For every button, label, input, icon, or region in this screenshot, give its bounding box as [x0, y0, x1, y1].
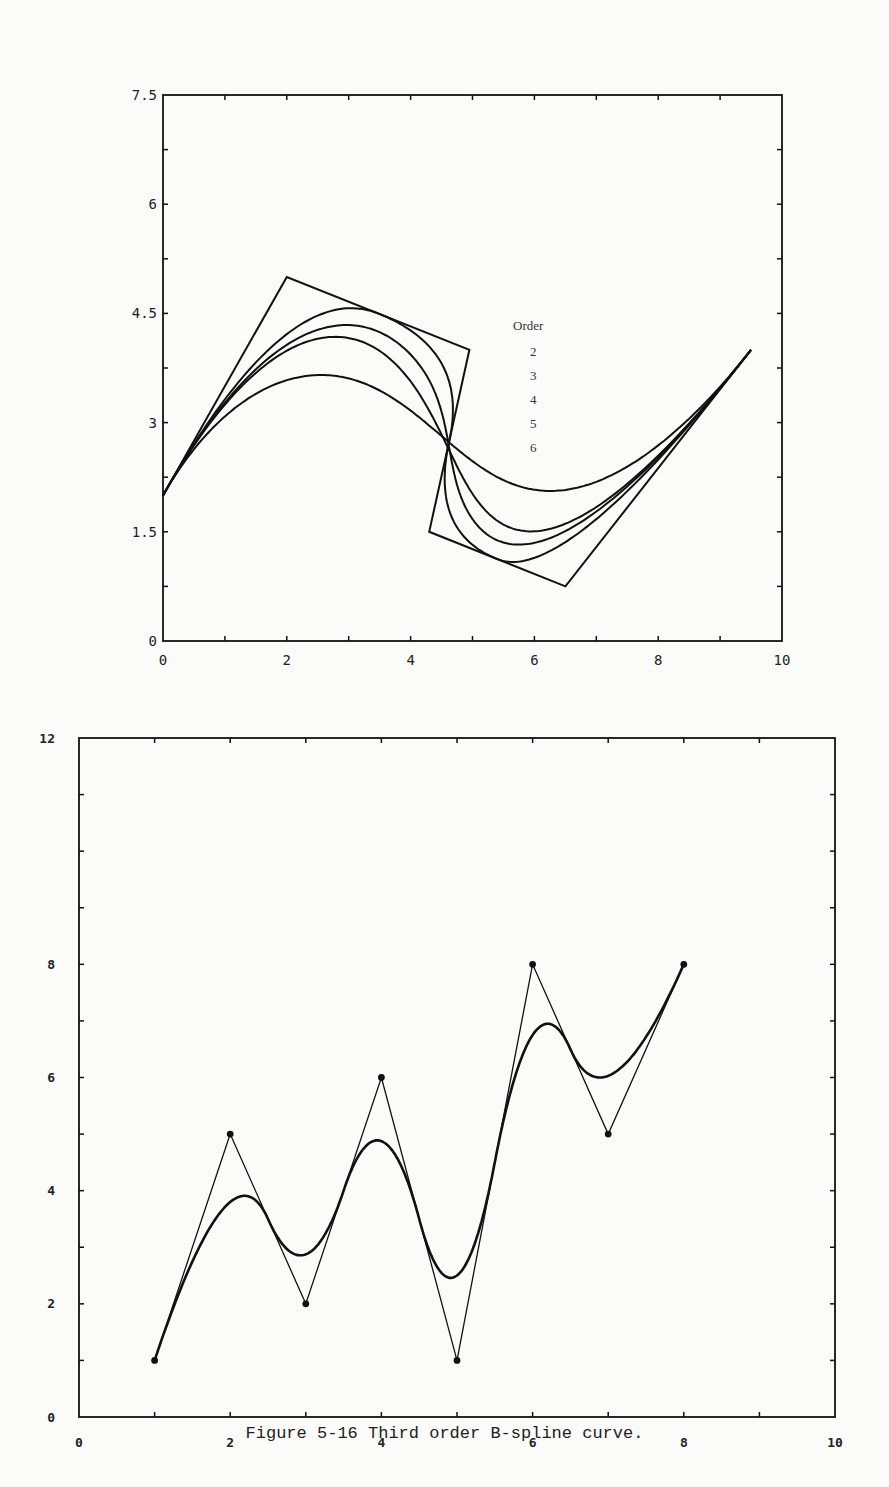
y-tick-label: 12 — [39, 731, 55, 746]
control-point — [529, 961, 536, 968]
control-point — [378, 1074, 385, 1081]
y-tick-label: 2 — [47, 1296, 55, 1311]
x-tick-label: 6 — [530, 652, 538, 668]
figure-canvas: 024681001.534.567.5 02468100246812 — [0, 0, 889, 1487]
top-chart: 024681001.534.567.5 — [132, 87, 791, 668]
y-tick-label: 4.5 — [132, 305, 157, 321]
control-point — [302, 1300, 309, 1307]
figure-caption: Figure 5-16 Third order B-spline curve. — [0, 1424, 889, 1443]
curve-order-3 — [163, 308, 751, 562]
x-tick-label: 8 — [654, 652, 662, 668]
curve-order-2 — [163, 277, 751, 586]
bspline-curve — [155, 964, 684, 1360]
x-tick-label: 2 — [283, 652, 291, 668]
control-point — [454, 1357, 461, 1364]
legend-item-order-6: 6 — [530, 440, 537, 456]
legend-item-order-3: 3 — [530, 368, 537, 384]
legend-item-order-4: 4 — [530, 392, 537, 408]
legend-item-order-2: 2 — [530, 344, 537, 360]
x-tick-label: 0 — [159, 652, 167, 668]
curve-order-4 — [163, 325, 751, 545]
bottom-chart: 02468100246812 — [39, 731, 843, 1450]
control-polygon — [155, 964, 684, 1360]
y-tick-label: 0 — [149, 633, 157, 649]
y-tick-label: 4 — [47, 1183, 55, 1198]
x-tick-label: 4 — [406, 652, 414, 668]
x-tick-label: 10 — [774, 652, 791, 668]
legend-item-order-5: 5 — [530, 416, 537, 432]
control-point — [227, 1131, 234, 1138]
y-tick-label: 8 — [47, 957, 55, 972]
control-point — [605, 1131, 612, 1138]
control-point — [151, 1357, 158, 1364]
y-tick-label: 0 — [47, 1410, 55, 1425]
y-tick-label: 7.5 — [132, 87, 157, 103]
y-tick-label: 6 — [149, 196, 157, 212]
y-tick-label: 3 — [149, 415, 157, 431]
y-tick-label: 6 — [47, 1070, 55, 1085]
y-tick-label: 1.5 — [132, 524, 157, 540]
plot-frame — [79, 738, 835, 1417]
curve-order-6 — [163, 350, 751, 496]
control-point — [680, 961, 687, 968]
legend-title: Order — [513, 318, 543, 334]
curve-order-5 — [163, 337, 751, 532]
